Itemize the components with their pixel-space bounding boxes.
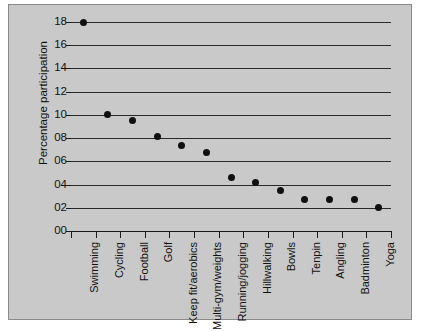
gridline [71,22,391,23]
x-axis-line [71,231,391,232]
data-point [129,117,136,124]
y-tick-label: 00 [41,224,67,236]
data-point [301,196,308,203]
data-point [326,196,333,203]
x-tick-mark [391,231,392,238]
x-tick-mark [120,231,121,238]
x-category-label: Cycling [113,242,125,278]
chart-panel: Percentage participation 000204060810121… [8,4,412,320]
x-category-label: Hillwalking [261,242,273,294]
y-tick-label: 12 [41,85,67,97]
y-tick-label: 14 [41,61,67,73]
y-tick-label: 08 [41,131,67,143]
gridline [71,208,391,209]
x-tick-mark [342,231,343,238]
x-category-label: Bowls [285,242,297,271]
x-tick-mark [293,231,294,238]
x-tick-mark [243,231,244,238]
y-tick-label: 10 [41,108,67,120]
x-category-label: Keep fit/aerobics [187,242,199,324]
data-point [203,149,210,156]
x-category-label: Golf [162,242,174,262]
gridline [71,68,391,69]
plot-area: 00020406081012141618SwimmingCyclingFootb… [71,22,391,231]
x-tick-mark [169,231,170,238]
data-point [351,196,358,203]
x-category-label: Football [138,242,150,281]
x-category-label: Multi-gym/weights [211,242,223,330]
gridline [71,138,391,139]
x-tick-mark [366,231,367,238]
x-tick-mark [145,231,146,238]
data-point [277,187,284,194]
data-point [80,19,87,26]
y-tick-label: 06 [41,154,67,166]
y-tick-label: 16 [41,38,67,50]
x-category-label: Tenpin [310,242,322,274]
gridline [71,115,391,116]
gridline [71,161,391,162]
x-tick-mark [268,231,269,238]
y-tick-label: 02 [41,201,67,213]
gridline [71,185,391,186]
data-point [228,174,235,181]
gridline [71,92,391,93]
y-tick-label: 18 [41,15,67,27]
x-category-label: Angling [334,242,346,279]
x-tick-mark [71,231,72,238]
x-category-label: Swimming [88,242,100,293]
y-tick-label: 04 [41,178,67,190]
x-category-label: Yoga [384,242,396,267]
data-point [104,111,111,118]
x-tick-mark [96,231,97,238]
x-category-label: Badminton [359,242,371,295]
data-point [252,179,259,186]
x-tick-mark [317,231,318,238]
data-point [375,204,382,211]
gridline [71,45,391,46]
x-tick-mark [219,231,220,238]
x-tick-mark [194,231,195,238]
data-point [178,142,185,149]
data-point [154,133,161,140]
x-category-label: Running/jogging [236,242,248,322]
